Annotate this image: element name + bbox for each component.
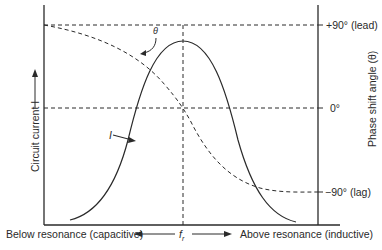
resonant-frequency-subscript: r: [182, 235, 184, 242]
current-curve-label: I: [109, 130, 112, 141]
theta-arrowhead: [140, 50, 146, 56]
resonance-diagram: [0, 0, 382, 250]
resonant-frequency-label: fr: [179, 229, 184, 242]
above-resonance-label: Above resonance (inductive): [240, 229, 373, 240]
phase-curve-label: θ: [153, 27, 158, 36]
left-axis-title-text: Circuit current I: [29, 101, 41, 172]
left-axis-title: Circuit current I: [30, 101, 41, 172]
minus-90-label: −90° (lag): [325, 187, 371, 198]
below-resonance-label: Below resonance (capacitive): [6, 229, 143, 240]
above-arrowhead: [224, 231, 232, 237]
phase-curve: [44, 25, 318, 192]
current-arrowhead: [128, 137, 136, 143]
plus-90-label: +90° (lead): [326, 20, 378, 31]
right-axis-title: Phase shift angle (θ): [367, 51, 378, 147]
zero-degree-label: 0°: [330, 103, 340, 114]
left-axis-arrowhead: [32, 69, 38, 77]
